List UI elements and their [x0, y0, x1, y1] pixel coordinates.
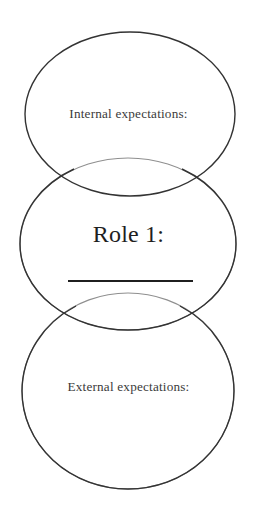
venn-diagram-canvas: Internal expectations: Role 1: External …: [0, 0, 257, 520]
venn-diagram-svg: [0, 0, 257, 520]
external-expectations-circle-lower-arc: [22, 391, 234, 489]
role-circle-lower-arc: [20, 244, 236, 330]
internal-expectations-label: Internal expectations:: [0, 106, 257, 122]
external-expectations-label: External expectations:: [0, 379, 257, 395]
role-title-label: Role 1:: [0, 219, 257, 249]
